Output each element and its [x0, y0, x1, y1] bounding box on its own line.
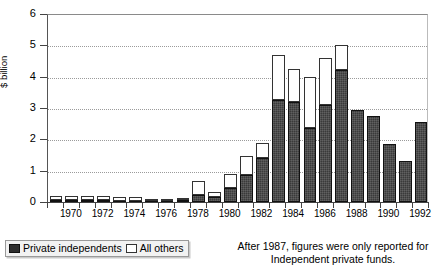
legend-label-all-others: All others	[140, 243, 184, 254]
bar-shadow-1988	[364, 112, 366, 202]
bar-shadow-1991	[412, 163, 414, 202]
bar-group-1992	[415, 14, 428, 202]
y-axis-label-3: 3	[0, 102, 36, 113]
bar-group-1980	[224, 14, 237, 202]
footnote-line-1: After 1987, figures were only reported f…	[228, 240, 438, 253]
venture-capital-stacked-bar-chart: $ billion 0123456 1970197219741976197819…	[0, 0, 440, 271]
y-axis-label-2: 2	[0, 133, 36, 144]
white-open-swatch-icon	[126, 244, 137, 253]
legend-label-private-independents: Private independents	[23, 243, 122, 254]
x-axis-label-1992: 1992	[400, 209, 440, 219]
bar-group-1974	[129, 14, 142, 202]
bar-segment-all-others-1979	[208, 192, 221, 197]
bar-segment-private-independents-1988	[351, 110, 364, 202]
bar-segment-all-others-1974	[129, 197, 142, 200]
bar-segment-all-others-1977	[177, 198, 190, 200]
bar-segment-private-independents-1987	[335, 70, 348, 202]
bar-segment-private-independents-1980	[224, 188, 237, 202]
y-axis-label-1: 1	[0, 165, 36, 176]
bar-shadow-1990	[396, 146, 398, 202]
bar-group-1987	[335, 14, 348, 202]
chart-legend: Private independents All others	[5, 240, 189, 257]
legend-item-all-others: All others	[126, 243, 184, 254]
bar-shadow-1984	[300, 71, 302, 202]
y-tick-3	[40, 108, 47, 109]
bar-group-1969	[50, 14, 63, 202]
plot-inner	[48, 15, 427, 202]
bar-segment-all-others-1970	[65, 196, 78, 200]
bar-segment-private-independents-1983	[272, 100, 285, 202]
bar-group-1979	[208, 14, 221, 202]
bar-segment-all-others-1976	[161, 199, 174, 201]
bar-group-1971	[81, 14, 94, 202]
bar-segment-all-others-1983	[272, 55, 285, 100]
y-axis-label-0: 0	[0, 196, 36, 207]
bar-segment-all-others-1982	[256, 143, 269, 157]
bar-segment-all-others-1972	[97, 196, 110, 200]
y-axis-label-5: 5	[0, 39, 36, 50]
bar-shadow-1981	[253, 158, 255, 202]
bar-group-1989	[367, 14, 380, 202]
bar-segment-private-independents-1992	[415, 122, 428, 202]
bar-group-1991	[399, 14, 412, 202]
bar-segment-private-independents-1986	[319, 105, 332, 202]
footnote-line-2: Independent private funds.	[228, 253, 438, 266]
bar-group-1976	[161, 14, 174, 202]
y-tick-1	[40, 171, 47, 172]
y-axis-label-4: 4	[0, 71, 36, 82]
bar-shadow-1992	[427, 124, 429, 202]
bar-segment-all-others-1980	[224, 174, 237, 188]
bar-group-1988	[351, 14, 364, 202]
bar-segment-private-independents-1978	[192, 195, 205, 202]
bar-group-1984	[288, 14, 301, 202]
y-tick-2	[40, 139, 47, 140]
y-tick-6	[40, 14, 47, 15]
bar-segment-private-independents-1989	[367, 116, 380, 202]
y-axis-label-6: 6	[0, 8, 36, 19]
y-tick-5	[40, 45, 47, 46]
bar-segment-all-others-1984	[288, 69, 301, 102]
bar-shadow-1989	[380, 118, 382, 202]
plot-area	[47, 14, 428, 202]
bar-segment-all-others-1975	[145, 199, 158, 201]
bar-segment-private-independents-1990	[383, 144, 396, 202]
bar-segment-all-others-1973	[113, 197, 126, 201]
bar-segment-private-independents-1991	[399, 161, 412, 202]
bar-group-1982	[256, 14, 269, 202]
bar-group-1986	[319, 14, 332, 202]
bar-segment-all-others-1987	[335, 45, 348, 70]
x-tick-0	[47, 202, 48, 208]
bar-segment-private-independents-1984	[288, 102, 301, 202]
legend-item-private-independents: Private independents	[9, 243, 122, 254]
bar-group-1970	[65, 14, 78, 202]
bar-segment-all-others-1969	[50, 196, 63, 200]
bar-group-1990	[383, 14, 396, 202]
bar-segment-all-others-1971	[81, 196, 94, 200]
bar-shadow-1978	[205, 183, 207, 202]
bar-group-1978	[192, 14, 205, 202]
bar-segment-all-others-1986	[319, 58, 332, 105]
bar-group-1972	[97, 14, 110, 202]
bar-group-1983	[272, 14, 285, 202]
bar-segment-private-independents-1981	[240, 175, 253, 202]
bar-segment-private-independents-1985	[304, 128, 317, 202]
bar-segment-all-others-1978	[192, 181, 205, 195]
bar-shadow-1986	[332, 60, 334, 202]
bar-shadow-1979	[221, 194, 223, 202]
bar-group-1985	[304, 14, 317, 202]
y-tick-4	[40, 77, 47, 78]
bar-segment-private-independents-1982	[256, 158, 269, 202]
bar-group-1975	[145, 14, 158, 202]
bar-group-1981	[240, 14, 253, 202]
dark-filled-swatch-icon	[9, 244, 20, 253]
chart-footnote: After 1987, figures were only reported f…	[228, 240, 438, 265]
bar-shadow-1980	[237, 176, 239, 202]
bar-shadow-1987	[348, 47, 350, 202]
y-tick-0	[40, 202, 47, 203]
bar-segment-all-others-1985	[304, 77, 317, 129]
bar-shadow-1982	[269, 145, 271, 202]
bar-group-1973	[113, 14, 126, 202]
bar-group-1977	[177, 14, 190, 202]
bar-segment-all-others-1981	[240, 156, 253, 175]
